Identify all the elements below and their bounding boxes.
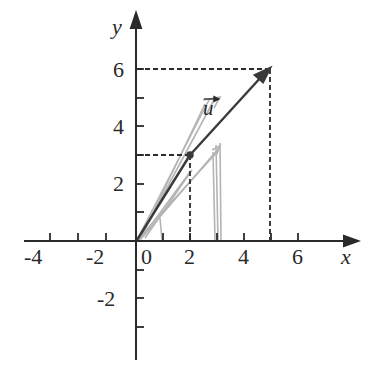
x-tick-label: 2 (184, 246, 195, 268)
y-axis-label: y (112, 16, 122, 38)
plot-canvas (0, 0, 376, 372)
y-tick-label: 2 (113, 173, 124, 195)
dashed-guide-lines (137, 69, 270, 241)
y-axis-arrow-icon (131, 13, 141, 28)
x-axis-label: x (341, 246, 351, 268)
x-tick-label: -4 (24, 246, 42, 268)
coordinate-plane-figure: y x -4 -2 0 2 4 6 2 4 6 -2 u (0, 0, 376, 372)
axes (24, 13, 358, 360)
y-tick-label: 6 (113, 59, 124, 81)
vector-u (137, 68, 270, 240)
x-tick-label: 0 (141, 246, 152, 268)
y-tick-label: -2 (97, 288, 115, 310)
point-2-3 (188, 153, 193, 158)
x-tick-label: 4 (238, 246, 249, 268)
vector-u-label: u (203, 98, 214, 119)
segment-origin-to-2-3 (137, 155, 190, 240)
x-tick-label: 6 (292, 246, 303, 268)
tick-marks (50, 69, 298, 327)
x-tick-label: -2 (86, 246, 104, 268)
y-tick-label: 4 (113, 116, 124, 138)
